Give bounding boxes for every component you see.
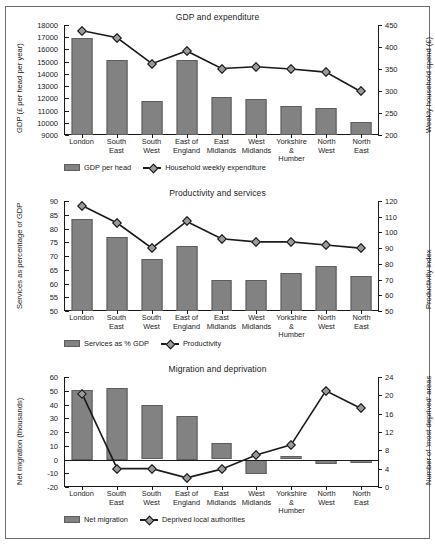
bar-slot <box>308 377 343 486</box>
y-tick-label-left: 60 <box>50 373 58 382</box>
y-tick-label-left: 17000 <box>37 33 58 42</box>
y-tick-mark-right <box>378 395 382 396</box>
y-tick-mark-right <box>378 469 382 470</box>
legend-label: Services as % GDP <box>84 339 149 348</box>
bar-series <box>65 201 378 310</box>
legend-item[interactable]: Services as % GDP <box>64 339 149 348</box>
y-tick-mark-left <box>65 229 69 230</box>
y-tick-label-left: 11000 <box>38 106 58 115</box>
x-axis-label-line: Yorkshire & <box>274 490 309 507</box>
y-tick-mark-left <box>65 297 69 298</box>
chart-title: GDP and expenditure <box>6 12 429 22</box>
plot-area <box>64 25 379 135</box>
y-tick-mark-right <box>378 487 382 488</box>
bar-slot <box>135 201 170 310</box>
bar-slot <box>65 377 100 486</box>
y-tick-mark-right <box>378 69 382 70</box>
legend-label: Deprived local authorities <box>162 515 245 524</box>
chart-legend: Net migrationDeprived local authorities <box>64 515 245 524</box>
y-tick-label-left: 80 <box>50 224 58 233</box>
y-tick-label-left: 0 <box>54 455 58 464</box>
x-axis-label-line: West <box>309 499 344 508</box>
x-axis-label-line: Midlands <box>204 499 239 508</box>
bar-series <box>65 25 378 134</box>
bar <box>176 246 197 311</box>
x-axis-label: London <box>64 490 99 516</box>
y-tick-label-right: 80 <box>385 259 393 268</box>
x-axis-label-line: Humber <box>274 155 309 164</box>
chart-panel-migration-deprivation: Migration and deprivation Net migration … <box>6 359 429 540</box>
y-tick-mark-right <box>378 25 382 26</box>
y-tick-label-right: 250 <box>385 109 398 118</box>
x-axis-label: NorthWest <box>309 138 344 164</box>
legend-item[interactable]: Net migration <box>64 515 128 524</box>
x-axis-label: NorthWest <box>309 314 344 340</box>
legend-item[interactable]: GDP per head <box>64 163 131 172</box>
y-tick-mark-left <box>65 377 69 378</box>
legend-item[interactable]: Deprived local authorities <box>140 515 245 524</box>
y-axis-title-right: Number of 'most deprived' areas <box>424 376 433 485</box>
chart-legend: Services as % GDPProductivity <box>64 339 221 348</box>
bar <box>176 60 197 135</box>
bar <box>281 106 302 135</box>
y-tick-mark-right <box>378 450 382 451</box>
x-axis-label-line: Humber <box>274 331 309 340</box>
y-tick-label-left: 70 <box>50 252 58 261</box>
y-tick-label-left: 18000 <box>37 21 58 30</box>
y-tick-mark-right <box>378 47 382 48</box>
legend-line-marker-icon <box>140 516 158 524</box>
bar-slot <box>308 201 343 310</box>
x-axis-label: SouthEast <box>99 314 134 340</box>
legend-bar-swatch <box>64 340 80 347</box>
bar-slot <box>343 377 378 486</box>
y-tick-mark-left <box>65 270 69 271</box>
legend-bar-swatch <box>64 516 80 523</box>
x-axis-label: SouthWest <box>134 490 169 516</box>
bar-slot <box>274 25 309 134</box>
bar-slot <box>274 377 309 486</box>
x-axis-label: EastMidlands <box>204 490 239 516</box>
y-tick-mark-left <box>65 49 69 50</box>
bar <box>211 443 232 460</box>
bar <box>142 405 163 460</box>
legend-item[interactable]: Productivity <box>161 339 221 348</box>
x-axis-label-line: Humber <box>274 507 309 516</box>
y-tick-mark-left <box>65 405 69 406</box>
x-axis-label: East ofEngland <box>169 490 204 516</box>
y-tick-label-right: 100 <box>385 228 398 237</box>
y-tick-label-right: 0 <box>385 483 389 492</box>
y-tick-mark-right <box>378 377 382 378</box>
chart-title: Migration and deprivation <box>6 364 429 374</box>
x-axis-label: London <box>64 314 99 340</box>
y-tick-label-right: 8 <box>385 446 389 455</box>
x-axis-label-line: Midlands <box>204 147 239 156</box>
y-tick-mark-left <box>65 25 69 26</box>
y-tick-label-right: 60 <box>385 291 393 300</box>
x-axis-label-line: England <box>169 499 204 508</box>
y-tick-label-right: 110 <box>385 212 397 221</box>
x-axis-label-line: Yorkshire & <box>274 314 309 331</box>
y-axis-left: 9000100001100012000130001400015000160001… <box>10 25 62 135</box>
x-axis-label: East ofEngland <box>169 314 204 340</box>
bar <box>72 219 93 311</box>
x-axis-label: Yorkshire &Humber <box>274 314 309 340</box>
x-axis-label-line: West <box>134 323 169 332</box>
bar-slot <box>239 377 274 486</box>
x-axis-label-line: East <box>344 499 379 508</box>
y-tick-label-left: 30 <box>50 414 58 423</box>
y-tick-mark-left <box>65 432 69 433</box>
y-tick-mark-left <box>65 37 69 38</box>
y-tick-label-left: 10 <box>50 441 58 450</box>
x-axis-label: SouthWest <box>134 138 169 164</box>
y-axis-right: 200250300350400450 <box>381 25 421 135</box>
x-axis-label-line: Yorkshire & <box>274 138 309 155</box>
x-axis-label: Yorkshire &Humber <box>274 490 309 516</box>
bar-slot <box>169 25 204 134</box>
legend-item[interactable]: Household weekly expenditure <box>143 163 266 172</box>
y-tick-label-left: 15000 <box>37 57 58 66</box>
y-tick-label-left: 10000 <box>37 118 58 127</box>
x-axis-label-line: East <box>99 499 134 508</box>
y-tick-label-left: 9000 <box>41 131 58 140</box>
y-tick-label-right: 24 <box>385 373 393 382</box>
y-tick-label-left: 50 <box>50 307 58 316</box>
